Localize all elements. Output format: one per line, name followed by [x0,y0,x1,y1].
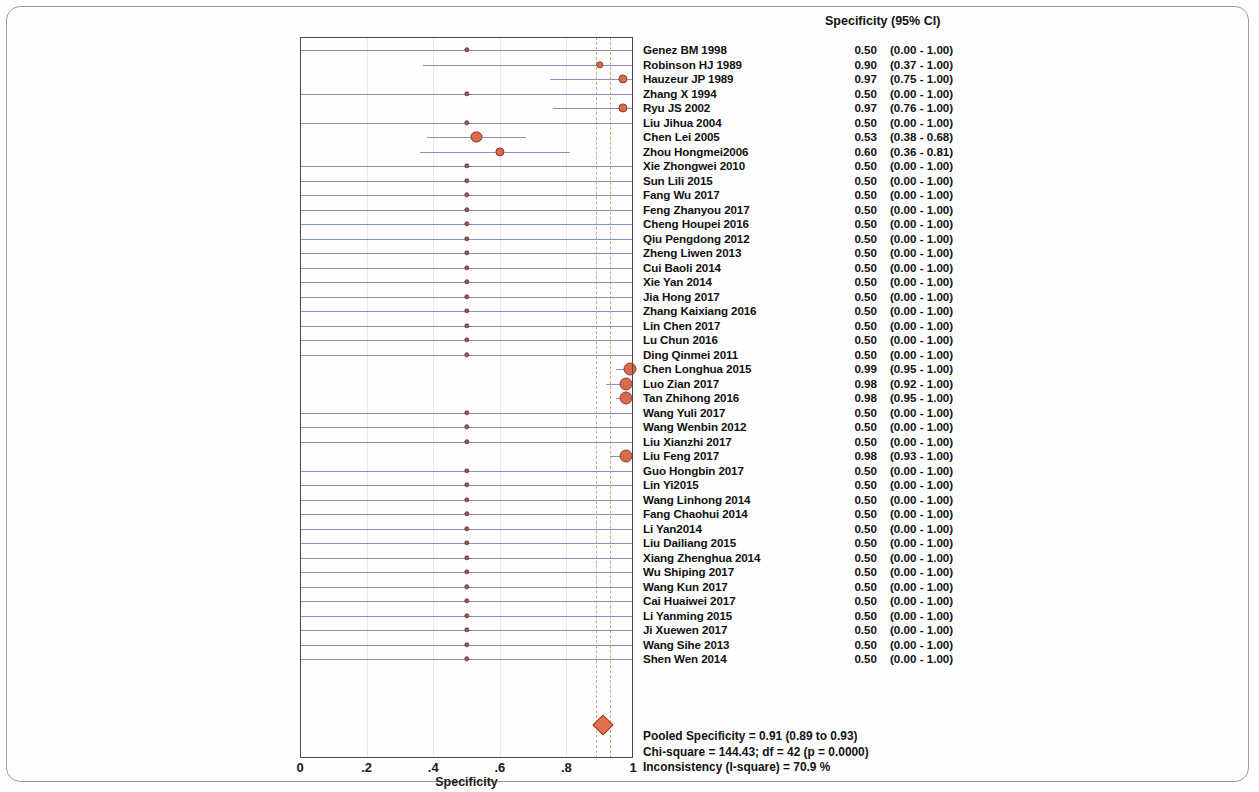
table-row: Cui Baoli 20140.50(0.00 - 1.00) [640,261,1040,276]
specificity-estimate: 0.99 [835,362,877,375]
specificity-estimate: 0.50 [835,217,877,230]
specificity-estimate: 0.50 [835,565,877,578]
confidence-interval-text: (0.00 - 1.00) [890,609,953,622]
confidence-interval-text: (0.00 - 1.00) [890,478,953,491]
specificity-estimate: 0.50 [835,435,877,448]
confidence-interval-text: (0.95 - 1.00) [890,362,953,375]
specificity-estimate: 0.50 [835,522,877,535]
study-name: Wu Shiping 2017 [643,565,734,578]
specificity-estimate: 0.50 [835,246,877,259]
confidence-interval-text: (0.00 - 1.00) [890,507,953,520]
table-row: Li Yanming 20150.50(0.00 - 1.00) [640,609,1040,624]
confidence-interval-text: (0.00 - 1.00) [890,333,953,346]
study-name: Ding Qinmei 2011 [643,348,738,361]
specificity-estimate: 0.50 [835,464,877,477]
study-name: Ji Xuewen 2017 [643,623,727,636]
x-tick-label: .2 [361,760,372,775]
table-row: Liu Xianzhi 20170.50(0.00 - 1.00) [640,435,1040,450]
confidence-interval-text: (0.38 - 0.68) [890,130,953,143]
table-row: Tan Zhihong 20160.98(0.95 - 1.00) [640,391,1040,406]
confidence-interval-text: (0.00 - 1.00) [890,116,953,129]
table-row: Ryu JS 20020.97(0.76 - 1.00) [640,101,1040,116]
study-name: Shen Wen 2014 [643,652,727,665]
table-row: Xie Yan 20140.50(0.00 - 1.00) [640,275,1040,290]
table-row: Fang Chaohui 20140.50(0.00 - 1.00) [640,507,1040,522]
confidence-interval-text: (0.00 - 1.00) [890,246,953,259]
specificity-estimate: 0.98 [835,377,877,390]
specificity-estimate: 0.50 [835,290,877,303]
specificity-estimate: 0.50 [835,652,877,665]
specificity-estimate: 0.50 [835,304,877,317]
confidence-interval-text: (0.00 - 1.00) [890,290,953,303]
table-row: Ji Xuewen 20170.50(0.00 - 1.00) [640,623,1040,638]
confidence-interval-text: (0.93 - 1.00) [890,449,953,462]
confidence-interval-text: (0.00 - 1.00) [890,594,953,607]
study-name: Chen Longhua 2015 [643,362,751,375]
study-name: Zhou Hongmei2006 [643,145,748,158]
x-tick-label: .4 [428,760,439,775]
table-row: Lin Chen 20170.50(0.00 - 1.00) [640,319,1040,334]
study-name: Wang Sihe 2013 [643,638,729,651]
plot-frame [300,37,633,758]
confidence-interval-text: (0.00 - 1.00) [890,159,953,172]
table-row: Robinson HJ 19890.90(0.37 - 1.00) [640,58,1040,73]
table-row: Lu Chun 20160.50(0.00 - 1.00) [640,333,1040,348]
confidence-interval-text: (0.36 - 0.81) [890,145,953,158]
x-tick-label: .8 [561,760,572,775]
confidence-interval-text: (0.00 - 1.00) [890,623,953,636]
study-name: Lin Yi2015 [643,478,699,491]
study-name: Sun Lili 2015 [643,174,713,187]
study-name: Liu Xianzhi 2017 [643,435,732,448]
specificity-estimate: 0.50 [835,275,877,288]
table-row: Liu Jihua 20040.50(0.00 - 1.00) [640,116,1040,131]
study-name: Wang Kun 2017 [643,580,728,593]
specificity-estimate: 0.50 [835,536,877,549]
study-name: Hauzeur JP 1989 [643,72,733,85]
table-row: Zhang Kaixiang 20160.50(0.00 - 1.00) [640,304,1040,319]
confidence-interval-text: (0.00 - 1.00) [890,348,953,361]
x-axis-title: Specificity [300,775,633,789]
table-row: Fang Wu 20170.50(0.00 - 1.00) [640,188,1040,203]
table-row: Wu Shiping 20170.50(0.00 - 1.00) [640,565,1040,580]
forest-plot-figure: 0.2.4.6.81 Specificity Specificity (95% … [0,0,1259,792]
specificity-estimate: 0.50 [835,507,877,520]
table-row: Qiu Pengdong 20120.50(0.00 - 1.00) [640,232,1040,247]
confidence-interval-text: (0.00 - 1.00) [890,43,953,56]
study-name: Liu Feng 2017 [643,449,719,462]
specificity-estimate: 0.50 [835,232,877,245]
specificity-estimate: 0.50 [835,420,877,433]
confidence-interval-text: (0.00 - 1.00) [890,464,953,477]
table-row: Hauzeur JP 19890.97(0.75 - 1.00) [640,72,1040,87]
table-row: Xiang Zhenghua 20140.50(0.00 - 1.00) [640,551,1040,566]
page-canvas: 0.2.4.6.81 Specificity Specificity (95% … [0,0,1259,792]
confidence-interval-text: (0.00 - 1.00) [890,87,953,100]
specificity-estimate: 0.50 [835,580,877,593]
specificity-estimate: 0.50 [835,319,877,332]
confidence-interval-text: (0.76 - 1.00) [890,101,953,114]
table-row: Liu Feng 20170.98(0.93 - 1.00) [640,449,1040,464]
confidence-interval-text: (0.00 - 1.00) [890,188,953,201]
table-row: Shen Wen 20140.50(0.00 - 1.00) [640,652,1040,667]
specificity-estimate: 0.50 [835,203,877,216]
table-row: Ding Qinmei 20110.50(0.00 - 1.00) [640,348,1040,363]
x-tick-label: 0 [296,760,303,775]
confidence-interval-text: (0.00 - 1.00) [890,536,953,549]
study-name: Li Yanming 2015 [643,609,732,622]
summary-line-2: Chi-square = 144.43; df = 42 (p = 0.0000… [643,745,869,761]
specificity-estimate: 0.90 [835,58,877,71]
study-name: Cai Huaiwei 2017 [643,594,736,607]
study-name: Cui Baoli 2014 [643,261,721,274]
study-name: Zhang Kaixiang 2016 [643,304,756,317]
specificity-estimate: 0.97 [835,72,877,85]
study-name: Feng Zhanyou 2017 [643,203,750,216]
confidence-interval-text: (0.00 - 1.00) [890,638,953,651]
summary-line-1: Pooled Specificity = 0.91 (0.89 to 0.93) [643,729,869,745]
specificity-estimate: 0.98 [835,449,877,462]
specificity-estimate: 0.50 [835,159,877,172]
confidence-interval-text: (0.00 - 1.00) [890,565,953,578]
study-name: Luo Zian 2017 [643,377,719,390]
confidence-interval-text: (0.00 - 1.00) [890,420,953,433]
specificity-estimate: 0.50 [835,594,877,607]
table-row: Zheng Liwen 20130.50(0.00 - 1.00) [640,246,1040,261]
study-name: Liu Dailiang 2015 [643,536,736,549]
